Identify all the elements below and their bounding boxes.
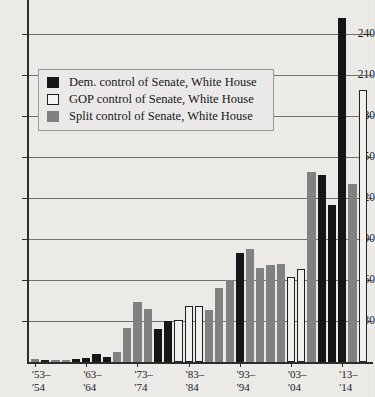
x-tick-mark <box>291 363 292 367</box>
bar <box>123 328 131 362</box>
bar <box>164 321 172 362</box>
bar <box>72 359 80 362</box>
x-tick-mark <box>342 363 343 367</box>
bar <box>133 302 141 362</box>
bar <box>82 358 90 362</box>
bar <box>338 18 346 362</box>
chart-legend: Dem. control of Senate, White House GOP … <box>38 69 274 131</box>
x-tick-mark <box>240 363 241 367</box>
bar <box>328 205 336 362</box>
bar <box>297 269 305 362</box>
y-tick-mark <box>22 157 29 158</box>
bar <box>51 360 59 362</box>
bar <box>144 309 152 362</box>
y-tick-mark <box>22 116 29 117</box>
x-tick-label: '83– '84 <box>186 368 220 393</box>
legend-label-gop: GOP control of Senate, White House <box>69 91 254 107</box>
bar <box>226 280 234 362</box>
bar <box>41 360 49 362</box>
bar <box>215 288 223 362</box>
x-axis-line <box>27 362 373 364</box>
legend-swatch-split-icon <box>47 111 59 122</box>
y-tick-mark <box>22 34 29 35</box>
x-tick-label: '03– '04 <box>288 368 322 393</box>
bar <box>174 320 182 362</box>
y-tick-mark <box>22 239 29 240</box>
bar <box>205 310 213 362</box>
bar <box>318 175 326 362</box>
bar <box>307 172 315 362</box>
y-tick-mark <box>22 198 29 199</box>
bar <box>103 357 111 362</box>
bar <box>62 360 70 362</box>
bar <box>195 306 203 362</box>
plot-area <box>29 0 373 362</box>
bar <box>236 253 244 362</box>
bar <box>92 354 100 362</box>
y-tick-mark <box>22 321 29 322</box>
x-tick-label: '63– '64 <box>83 368 117 393</box>
legend-swatch-dem-icon <box>47 77 59 88</box>
bar <box>31 359 39 362</box>
legend-label-dem: Dem. control of Senate, White House <box>69 74 257 90</box>
bar <box>266 265 274 362</box>
x-tick-mark <box>137 363 138 367</box>
bar <box>185 306 193 362</box>
bar <box>154 329 162 362</box>
legend-swatch-gop-icon <box>47 94 59 105</box>
legend-label-split: Split control of Senate, White House <box>69 108 253 124</box>
y-tick-mark <box>22 75 29 76</box>
bar <box>287 277 295 362</box>
bar-chart: 306090120150180210240 '53– '54'63– '64'7… <box>0 0 375 397</box>
y-tick-mark <box>22 280 29 281</box>
bar <box>113 352 121 362</box>
bar <box>246 249 254 362</box>
x-tick-mark <box>86 363 87 367</box>
x-tick-mark <box>35 363 36 367</box>
x-tick-label: '73– '74 <box>134 368 168 393</box>
x-tick-mark <box>189 363 190 367</box>
x-tick-label: '53– '54 <box>32 368 66 393</box>
bar <box>348 184 356 362</box>
x-tick-label: '93– '94 <box>237 368 271 393</box>
bar <box>256 268 264 362</box>
bar <box>277 264 285 362</box>
bar <box>359 90 367 362</box>
x-tick-label: '13– '14 <box>339 368 373 393</box>
